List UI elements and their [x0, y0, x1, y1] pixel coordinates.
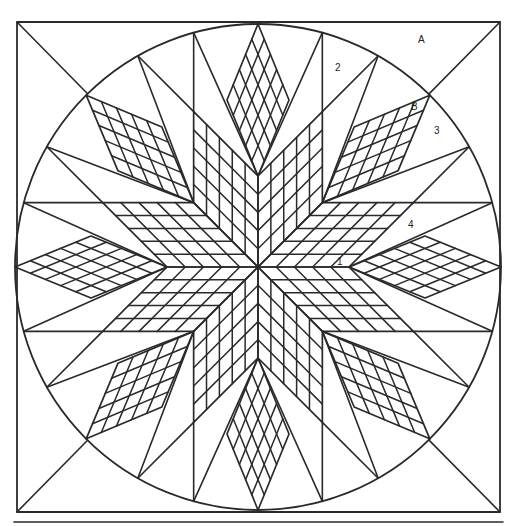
diamond-grid-line — [395, 255, 471, 286]
piece-label-4: 4 — [408, 220, 414, 230]
diamond-grid-line — [30, 242, 106, 273]
outer-diamond — [322, 331, 429, 438]
extended-arm-edge — [413, 147, 469, 203]
diamond-grid-line — [233, 419, 264, 495]
arm-grid-line — [175, 267, 239, 331]
arm-grid-line — [258, 184, 322, 248]
arm-grid-line — [175, 203, 239, 267]
piece-label-1: 1 — [337, 257, 343, 267]
lone-star-arm — [258, 267, 322, 422]
corner-diagonal-line — [17, 22, 88, 94]
diamond-grid-line — [252, 373, 283, 449]
diamond-grid-line — [239, 54, 270, 130]
arm-grid-line — [139, 267, 203, 331]
diamond-grid-line — [239, 70, 270, 146]
quilt-pattern-diagram — [0, 0, 518, 526]
diamond-grid-line — [76, 242, 152, 273]
arm-grid-line — [313, 203, 377, 267]
arm-grid-line — [258, 148, 322, 212]
arm-grid-line — [157, 267, 221, 331]
diamond-grid-line — [61, 248, 137, 279]
diamond-grid-line — [246, 388, 277, 464]
diamond-grid-line — [239, 388, 270, 464]
diamond-grid-line — [246, 54, 277, 130]
diamond-grid-line — [252, 85, 283, 161]
arm-grid-line — [194, 148, 258, 212]
extended-arm-edge — [138, 422, 194, 478]
arm-grid-line — [139, 203, 203, 267]
extended-arm-edge — [47, 147, 103, 203]
arm-grid-line — [258, 322, 322, 386]
piece-label-a: A — [418, 35, 425, 45]
piece-label-b: B — [411, 102, 418, 112]
diamond-grid-line — [45, 255, 121, 286]
diamond-grid-line — [233, 85, 264, 161]
diamond-grid-line — [61, 255, 137, 286]
arm-grid-line — [258, 166, 322, 230]
diamond-grid-line — [233, 373, 264, 449]
diamond-grid-line — [364, 242, 440, 273]
diamond-grid-line — [252, 39, 283, 115]
extended-arm-edge — [413, 331, 469, 387]
piece-label-2: 2 — [335, 63, 341, 73]
lone-star-arm — [194, 112, 258, 267]
arm-grid-line — [194, 285, 258, 349]
outer-diamond — [86, 95, 193, 202]
arm-grid-line — [157, 203, 221, 267]
arm-grid-line — [294, 267, 358, 331]
diamond-grid-line — [379, 248, 455, 279]
extended-arm-edge — [322, 422, 378, 478]
diamond-grid-line — [246, 70, 277, 146]
diamond-grid-line — [76, 261, 152, 292]
lone-star-arm — [258, 267, 413, 331]
lone-star-arm — [194, 267, 258, 422]
diamond-grid-line — [45, 248, 121, 279]
diamond-grid-line — [30, 261, 106, 292]
arm-grid-line — [276, 203, 340, 267]
lone-star-arm — [103, 203, 258, 267]
extended-arm-edge — [322, 56, 378, 112]
arm-grid-line — [276, 267, 340, 331]
arm-grid-line — [194, 184, 258, 248]
corner-diagonal-line — [429, 440, 500, 512]
arm-grid-line — [294, 203, 358, 267]
arm-grid-line — [194, 303, 258, 367]
arm-grid-line — [194, 166, 258, 230]
diamond-grid-line — [252, 419, 283, 495]
lone-star-arm — [103, 267, 258, 331]
diamond-grid-line — [395, 248, 471, 279]
diamond-grid-line — [233, 39, 264, 115]
corner-diagonal-line — [429, 22, 500, 94]
diamond-grid-line — [410, 242, 486, 273]
arm-grid-line — [194, 322, 258, 386]
diamond-grid-line — [246, 404, 277, 480]
piece-label-3: 3 — [434, 126, 440, 136]
diamond-grid-line — [239, 404, 270, 480]
arm-grid-line — [258, 303, 322, 367]
extended-arm-edge — [47, 331, 103, 387]
extended-arm-edge — [138, 56, 194, 112]
diamond-grid-line — [379, 255, 455, 286]
lone-star-arm — [258, 112, 322, 267]
lone-star-arm — [258, 203, 413, 267]
diamond-grid-line — [410, 261, 486, 292]
corner-diagonal-line — [17, 440, 88, 512]
outer-diamond — [86, 331, 193, 438]
arm-grid-line — [258, 285, 322, 349]
arm-grid-line — [313, 267, 377, 331]
diamond-grid-line — [364, 261, 440, 292]
